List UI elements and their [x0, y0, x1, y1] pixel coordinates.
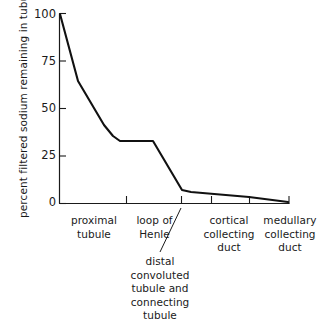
segment-line-1: medullary	[258, 214, 322, 228]
segment-line-1: cortical	[198, 214, 260, 228]
annotation-line-5: tubule	[120, 309, 200, 323]
segment-line-2: collecting	[198, 228, 260, 242]
sodium-reabsorption-chart: percent filtered sodium remaining in tub…	[0, 0, 322, 324]
annotation-line-4: connecting	[120, 296, 200, 310]
segment-line-1: proximal	[62, 214, 126, 228]
sodium-remaining-line	[60, 14, 288, 202]
annotation-line-2: convoluted	[120, 269, 200, 283]
segment-line-2: Henle	[127, 228, 182, 242]
annotation-line-1: distal	[120, 255, 200, 269]
annotation-line-3: tubule and	[120, 282, 200, 296]
segment-line-3: duct	[198, 241, 260, 255]
x-segment-label-medullary-collecting-duct: medullary collecting duct	[258, 214, 322, 255]
segment-line-3: duct	[258, 241, 322, 255]
segment-line-2: collecting	[258, 228, 322, 242]
x-segment-label-proximal-tubule: proximal tubule	[62, 214, 126, 241]
annotation-distal-convoluted-tubule: distal convoluted tubule and connecting …	[120, 255, 200, 323]
segment-line-2: tubule	[62, 228, 126, 242]
x-segment-label-cortical-collecting-duct: cortical collecting duct	[198, 214, 260, 255]
segment-line-1: loop of	[127, 214, 182, 228]
x-segment-label-loop-of-henle: loop of Henle	[127, 214, 182, 241]
y-axis-ticks	[60, 14, 67, 204]
